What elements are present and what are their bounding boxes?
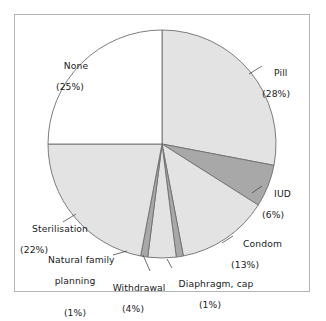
- leader-line-diaphragm: [167, 259, 172, 268]
- slice-label-sterilisation-name: Sterilisation: [32, 223, 88, 234]
- slice-label-nfp-percent: (1%): [36, 308, 114, 319]
- slice-label-sterilisation-percent: (22%): [20, 245, 88, 256]
- leader-line-pill: [249, 66, 262, 74]
- slice-label-diaphragm: Diaphragm, cap (1%): [162, 268, 258, 321]
- slice-label-withdrawal-name: Withdrawal: [113, 282, 166, 293]
- pie-slice-pill: [162, 30, 276, 165]
- slice-label-none-name: None: [64, 60, 88, 71]
- slice-label-diaphragm-percent: (1%): [162, 300, 258, 311]
- slice-label-pill-name: Pill: [274, 67, 287, 78]
- slice-label-diaphragm-name: Diaphragm, cap: [179, 278, 254, 289]
- slice-label-none-percent: (25%): [42, 82, 98, 93]
- slice-label-none: None (25%): [42, 50, 98, 114]
- leader-line-nfp: [113, 251, 127, 255]
- slice-label-sterilisation: Sterilisation (22%): [20, 213, 88, 277]
- slice-label-iud-name: IUD: [274, 188, 291, 199]
- slice-label-nfp-name-line2: planning: [36, 276, 114, 287]
- slice-label-pill-percent: (28%): [262, 89, 290, 100]
- slice-label-iud-percent: (6%): [262, 210, 291, 221]
- slice-label-condom-name: Condom: [243, 238, 282, 249]
- slice-label-pill: Pill (28%): [262, 57, 290, 121]
